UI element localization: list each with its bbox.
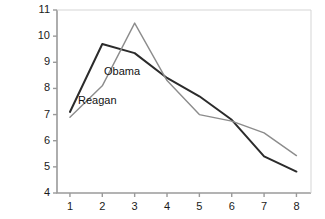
y-tick-label: 4 bbox=[44, 186, 50, 198]
line-chart: 4567891011 12345678 ReaganObama bbox=[0, 0, 325, 219]
x-tick-label: 6 bbox=[217, 200, 247, 212]
y-tick-label: 10 bbox=[38, 29, 50, 41]
y-tick-label: 7 bbox=[44, 108, 50, 120]
y-tick-label: 11 bbox=[39, 3, 50, 15]
series-line-obama bbox=[70, 23, 296, 156]
x-tick-label: 4 bbox=[152, 200, 182, 212]
series-line-reagan bbox=[70, 44, 296, 172]
y-tick-label: 8 bbox=[44, 81, 50, 93]
x-tick-label: 3 bbox=[120, 200, 150, 212]
y-tick-label: 6 bbox=[44, 134, 50, 146]
series-label-obama: Obama bbox=[104, 65, 140, 77]
x-tick-label: 8 bbox=[281, 200, 311, 212]
x-tick-label: 2 bbox=[87, 200, 117, 212]
y-tick-label: 5 bbox=[44, 160, 50, 172]
x-tick-label: 1 bbox=[55, 200, 85, 212]
series-label-reagan: Reagan bbox=[78, 94, 117, 106]
y-tick-label: 9 bbox=[44, 55, 50, 67]
x-tick-label: 7 bbox=[249, 200, 279, 212]
x-tick-label: 5 bbox=[184, 200, 214, 212]
